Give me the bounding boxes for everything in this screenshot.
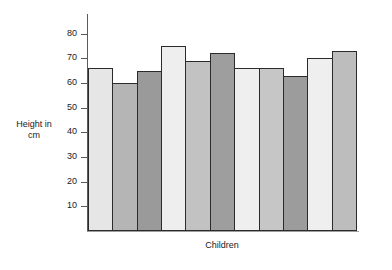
bar bbox=[137, 71, 162, 231]
y-axis-tick-label: 50 bbox=[67, 102, 77, 112]
bar bbox=[112, 83, 137, 231]
y-axis-title: Height in cm bbox=[6, 119, 62, 141]
bar bbox=[88, 68, 113, 231]
y-axis-tick-label: 30 bbox=[67, 151, 77, 161]
y-axis-tick-label: 40 bbox=[67, 126, 77, 136]
bar-chart-figure: Height in cm 1020304050607080 Children bbox=[0, 0, 392, 270]
y-axis-tick-mark bbox=[81, 108, 88, 109]
bar bbox=[210, 53, 235, 231]
y-axis-tick-label: 80 bbox=[67, 28, 77, 38]
bar bbox=[185, 61, 210, 231]
y-axis-tick-mark bbox=[81, 206, 88, 207]
bar bbox=[283, 76, 308, 231]
y-axis-tick-label: 20 bbox=[67, 176, 77, 186]
x-axis-title: Children bbox=[88, 240, 356, 250]
y-axis-tick-mark bbox=[81, 34, 88, 35]
bar bbox=[259, 68, 284, 231]
y-axis-tick-mark bbox=[81, 83, 88, 84]
y-axis-tick-label: 10 bbox=[67, 200, 77, 210]
y-axis-title-line-1: Height in bbox=[6, 119, 62, 130]
y-axis-tick-mark bbox=[81, 182, 88, 183]
bar bbox=[307, 58, 332, 231]
y-axis-tick-label: 70 bbox=[67, 52, 77, 62]
x-axis-line bbox=[87, 231, 359, 232]
y-axis-tick-mark bbox=[81, 132, 88, 133]
y-axis-tick-label: 60 bbox=[67, 77, 77, 87]
bar-series bbox=[88, 14, 356, 231]
y-axis-tick-mark bbox=[81, 58, 88, 59]
bar bbox=[234, 68, 259, 231]
y-axis-tick-mark bbox=[81, 157, 88, 158]
bar bbox=[161, 46, 186, 231]
bar bbox=[332, 51, 357, 231]
y-axis-title-line-2: cm bbox=[6, 130, 62, 141]
